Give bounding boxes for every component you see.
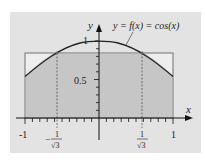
node-point-right bbox=[141, 52, 144, 55]
y-axis-label: y bbox=[87, 19, 93, 31]
y-tick-label-0.5: 0.5 bbox=[74, 75, 87, 86]
svg-text:1: 1 bbox=[140, 130, 144, 139]
x-axis-label: x bbox=[185, 103, 191, 115]
svg-text:√3: √3 bbox=[51, 141, 59, 150]
y-tick-label-1: 1 bbox=[83, 35, 88, 46]
function-label: y = f(x) = cos(x) bbox=[112, 20, 180, 32]
x-tick-label-neg1: -1 bbox=[19, 129, 27, 140]
svg-text:√3: √3 bbox=[137, 141, 145, 150]
node-point-left bbox=[56, 52, 59, 55]
gaussian-quadrature-diagram: y x 1 0.5 -1 1 − 1 √3 1 √3 y = f(x) = co… bbox=[0, 0, 205, 161]
svg-text:1: 1 bbox=[55, 130, 59, 139]
x-tick-label-pos1: 1 bbox=[171, 129, 176, 140]
svg-text:−: − bbox=[45, 134, 50, 144]
